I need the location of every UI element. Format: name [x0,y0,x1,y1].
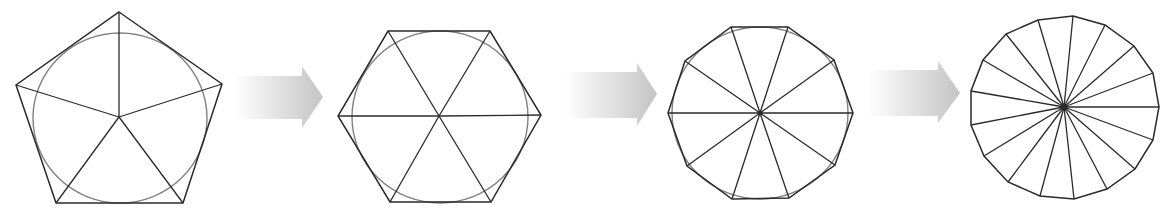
heptadecagon-spoke [1064,107,1153,140]
heptadecagon-center-dot [1061,104,1068,111]
decagon-spoke [685,61,760,113]
heptadecagon-spoke [1006,34,1064,107]
decagon-figure [668,27,853,199]
arrow-1-right-arrow-icon [235,66,323,128]
pentagon-spoke [56,117,119,203]
decagon-spoke [687,113,760,166]
heptadecagon-spoke [1064,16,1073,107]
heptadecagon-spoke [1040,107,1064,196]
polygon-progression-diagram [0,0,1174,219]
heptadecagon-spoke [1008,107,1064,182]
hexagon-spoke [390,116,439,202]
heptadecagon-spoke [1064,46,1134,107]
hexagon-spoke [388,31,439,116]
decagon-spoke [760,113,835,165]
pentagon-spoke [16,85,119,117]
decagon-spoke [760,60,834,113]
hexagon-spoke [439,31,490,116]
arrow-2-right-arrow-icon [565,63,657,126]
decagon-spoke [760,113,789,198]
hexagon-spoke [439,116,491,202]
arrow-3-right-arrow-icon [868,61,960,123]
pentagon-spoke [119,117,183,203]
heptadecagon-spoke [1064,25,1105,107]
diagram-canvas [0,0,1174,219]
decagon-spoke [731,27,760,113]
pentagon-figure [16,12,222,203]
decagon-center-dot [758,111,763,116]
heptadecagon-spoke [1064,107,1074,199]
decagon-spoke [760,27,788,113]
decagon-spoke [732,113,760,199]
heptadecagon-spoke [1064,107,1135,169]
heptadecagon-figure [971,16,1159,199]
hexagon-spoke [439,115,541,116]
hexagon-figure [338,31,541,203]
heptadecagon-spoke [1064,73,1153,107]
heptadecagon-spoke [1064,107,1107,189]
